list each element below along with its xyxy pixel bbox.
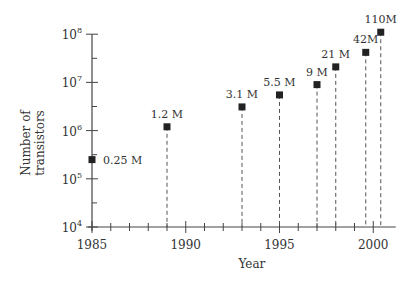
data-labels: 0.25 M1.2 M3.1 M5.5 M9 M21 M42M110M [103, 13, 397, 166]
x-tick-label: 1985 [77, 238, 108, 252]
data-point-marker [89, 156, 96, 163]
data-point-label: 1.2 M [151, 108, 183, 121]
data-point-marker [239, 103, 246, 110]
drop-lines [167, 32, 381, 227]
x-axis-title: Year [237, 257, 265, 271]
x-tick-label: 2000 [358, 238, 389, 252]
data-point-label: 21 M [321, 48, 350, 61]
y-tick-label: 108 [62, 26, 82, 42]
y-tick-label: 104 [62, 219, 82, 235]
data-point-label: 110M [365, 13, 397, 26]
data-point-label: 0.25 M [103, 154, 142, 167]
y-axis-title: Number oftransistors [19, 109, 47, 176]
data-point-marker [164, 123, 171, 130]
data-point-marker [362, 49, 369, 56]
x-tick-label: 1990 [170, 238, 201, 252]
data-point-label: 9 M [306, 66, 328, 79]
data-point-marker [314, 81, 321, 88]
y-tick-label: 107 [62, 74, 82, 90]
data-point-label: 42M [353, 33, 378, 46]
axis-titles: YearNumber oftransistors [19, 109, 266, 271]
data-point-label: 3.1 M [226, 88, 258, 101]
data-point-label: 5.5 M [263, 76, 295, 89]
y-tick-label: 106 [62, 123, 82, 139]
x-tick-label: 1995 [264, 238, 295, 252]
transistor-chart: 1041051061071081985199019952000 0.25 M1.… [0, 0, 415, 282]
y-tick-label: 105 [62, 171, 82, 187]
data-point-marker [332, 63, 339, 70]
data-point-marker [276, 91, 283, 98]
